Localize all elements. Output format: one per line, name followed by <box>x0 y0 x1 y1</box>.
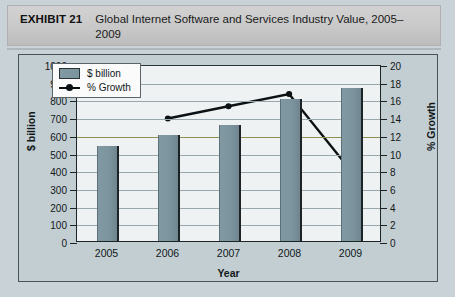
x-axis-tick-label: 2005 <box>95 247 118 259</box>
y-axis-tick <box>70 155 77 156</box>
y2-axis-tick <box>380 119 387 120</box>
x-axis-tick-label: 2006 <box>156 247 179 259</box>
y-axis-tick <box>70 243 77 244</box>
y2-axis-tick <box>380 243 387 244</box>
y2-axis-tick-label: 10 <box>390 149 401 160</box>
chart-frame: $ billion % Growth Year 0100200300400500… <box>18 54 438 282</box>
y2-axis-tick <box>380 137 387 138</box>
y2-axis-title: % Growth <box>425 102 437 151</box>
y2-axis-tick-label: 14 <box>390 114 401 125</box>
x-axis-tick-label: 2008 <box>278 247 301 259</box>
y2-axis-tick-label: 12 <box>390 131 401 142</box>
y-axis-tick-label: 100 <box>50 220 67 231</box>
gridline <box>77 119 380 120</box>
y-axis-tick <box>70 137 77 138</box>
y-axis-tick-label: 700 <box>50 114 67 125</box>
right-axis-line <box>380 65 381 242</box>
y-axis-title: $ billion <box>25 111 37 151</box>
y2-axis-tick <box>380 155 387 156</box>
bar-2005 <box>97 146 119 241</box>
exhibit-page: EXHIBIT 21 Global Internet Software and … <box>0 0 455 297</box>
legend-label-bar: $ billion <box>87 68 121 79</box>
x-axis-tick-label: 2009 <box>339 247 362 259</box>
legend-label-line: % Growth <box>87 82 131 93</box>
y-axis-tick-label: 500 <box>50 149 67 160</box>
y-axis-tick-label: 300 <box>50 184 67 195</box>
y-axis-tick <box>70 119 77 120</box>
y2-axis-tick-label: 4 <box>390 202 396 213</box>
y2-axis-tick-label: 2 <box>390 220 396 231</box>
y2-axis-tick <box>380 190 387 191</box>
y2-axis-tick <box>380 101 387 102</box>
y2-axis-tick <box>380 208 387 209</box>
x-axis-tick-label: 2007 <box>217 247 240 259</box>
y2-axis-tick-label: 20 <box>390 61 401 72</box>
y-axis-tick <box>70 225 77 226</box>
bar-2006 <box>158 135 180 241</box>
y2-axis-tick-label: 18 <box>390 78 401 89</box>
bar-2009 <box>341 88 363 241</box>
bar-swatch-icon <box>59 68 80 79</box>
y-axis-tick-label: 400 <box>50 167 67 178</box>
y-axis-tick-label: 600 <box>50 131 67 142</box>
legend-item-bar: $ billion <box>59 68 131 79</box>
y-axis-tick <box>70 190 77 191</box>
bar-2007 <box>219 125 241 241</box>
x-axis-title: Year <box>76 267 381 279</box>
exhibit-header: EXHIBIT 21 Global Internet Software and … <box>7 5 441 46</box>
gridline <box>77 101 380 102</box>
y-axis-tick <box>70 101 77 102</box>
header-divider <box>7 48 441 50</box>
y2-axis-tick-label: 6 <box>390 184 396 195</box>
exhibit-number: EXHIBIT 21 <box>20 12 82 25</box>
chart-legend: $ billion % Growth <box>52 63 141 98</box>
line-marker-icon <box>59 83 80 92</box>
y-axis-tick-label: 0 <box>61 238 67 249</box>
y2-axis-tick-label: 0 <box>390 238 396 249</box>
legend-item-line: % Growth <box>59 82 131 93</box>
y2-axis-tick-label: 8 <box>390 167 396 178</box>
y-axis-tick <box>70 172 77 173</box>
bar-2008 <box>280 99 302 241</box>
y2-axis-tick <box>380 172 387 173</box>
y2-axis-tick <box>380 225 387 226</box>
y-axis-tick-label: 200 <box>50 202 67 213</box>
exhibit-title: Global Internet Software and Services In… <box>95 12 425 41</box>
y2-axis-tick-label: 16 <box>390 96 401 107</box>
y2-axis-tick <box>380 66 387 67</box>
y2-axis-tick <box>380 84 387 85</box>
y-axis-tick <box>70 208 77 209</box>
